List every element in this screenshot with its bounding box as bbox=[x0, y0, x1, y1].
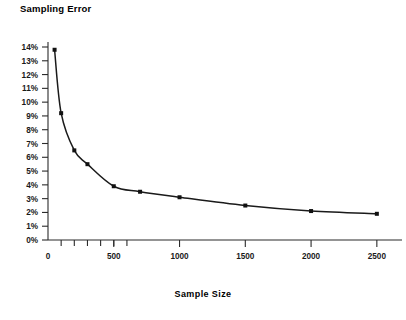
plot-area: 0%1%2%3%4%5%6%7%8%9%10%11%12%13%14% 0500… bbox=[0, 0, 406, 320]
y-tick-label: 3% bbox=[26, 195, 39, 204]
data-point-marker bbox=[178, 195, 182, 199]
x-tick-label: 0 bbox=[46, 252, 51, 261]
data-point-marker bbox=[72, 148, 76, 152]
y-tick-label: 7% bbox=[26, 140, 39, 149]
data-point-marker bbox=[112, 184, 116, 188]
x-tick-label: 1500 bbox=[236, 252, 255, 261]
data-point-marker bbox=[53, 48, 57, 52]
y-tick-label: 9% bbox=[26, 112, 39, 121]
x-axis-title: Sample Size bbox=[0, 289, 406, 299]
y-tick-label: 8% bbox=[26, 126, 39, 135]
y-tick-label: 14% bbox=[22, 43, 39, 52]
y-tick-label: 0% bbox=[26, 236, 39, 245]
x-axis: 05001000150020002500 bbox=[46, 240, 402, 261]
data-point-marker bbox=[309, 209, 313, 213]
x-tick-label: 500 bbox=[107, 252, 121, 261]
data-point-marker bbox=[138, 190, 142, 194]
series-line bbox=[55, 50, 377, 214]
y-tick-label: 12% bbox=[22, 71, 39, 80]
y-tick-label: 10% bbox=[22, 98, 39, 107]
data-series bbox=[53, 48, 379, 216]
x-tick-label: 1000 bbox=[170, 252, 189, 261]
y-tick-label: 2% bbox=[26, 208, 39, 217]
data-point-marker bbox=[85, 162, 89, 166]
data-point-marker bbox=[375, 212, 379, 216]
y-tick-label: 11% bbox=[22, 84, 39, 93]
data-point-marker bbox=[59, 111, 63, 115]
y-tick-label: 13% bbox=[22, 57, 39, 66]
y-tick-label: 6% bbox=[26, 153, 39, 162]
x-tick-label: 2500 bbox=[368, 252, 387, 261]
y-tick-label: 4% bbox=[26, 181, 39, 190]
x-tick-label: 2000 bbox=[302, 252, 321, 261]
data-point-marker bbox=[243, 204, 247, 208]
y-axis: 0%1%2%3%4%5%6%7%8%9%10%11%12%13%14% bbox=[22, 42, 48, 245]
sampling-error-chart: Sampling Error 0%1%2%3%4%5%6%7%8%9%10%11… bbox=[0, 0, 406, 320]
y-tick-label: 1% bbox=[26, 222, 39, 231]
y-tick-label: 5% bbox=[26, 167, 39, 176]
